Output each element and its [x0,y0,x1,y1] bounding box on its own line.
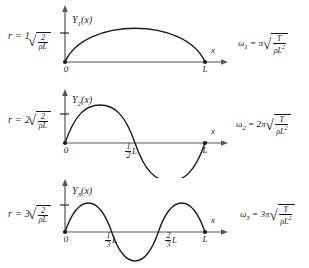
omega-subscript: 3 [246,214,250,222]
omega-subscript: 2 [242,124,246,132]
tick-suffix: L [132,146,137,156]
x-tick-label-0: 0 [60,64,72,74]
tick-suffix: L [172,235,177,245]
fraction: TρL2 [273,35,286,55]
fraction-denominator: 2 [125,152,131,160]
omega-subscript: 1 [244,43,248,51]
mode-row-2: r = 2 √2ρL Y2(x) x 0 12L L ω2 [0,89,309,178]
x-tick-label-third-L: 13L [98,232,124,250]
sqrt-symbol: √TρL2 [263,33,289,55]
radical-sign-icon: √ [263,37,271,52]
fraction: 13 [105,232,111,250]
fraction: 12 [125,143,131,161]
fraction-numerator: T [273,35,286,44]
x-tick-label-0: 0 [60,145,72,155]
x-axis-label-1: x [211,45,215,55]
equals-sign: = [250,38,256,48]
x-axis-label-2: x [211,126,215,136]
mode-curve-2 [65,105,205,178]
denominator-exponent: 2 [288,215,291,221]
equals-sign: = [252,209,258,219]
x-tick-label-L: L [199,145,211,155]
denominator-exponent: 2 [284,125,287,131]
x-tick-label-L: L [199,64,211,74]
sqrt-symbol: √TρL2 [269,204,295,226]
fraction-denominator: ρL2 [279,215,292,226]
sqrt-symbol: √TρL2 [265,114,291,136]
radical-sign-icon: √ [269,208,277,223]
equals-sign: = [248,119,254,129]
fraction-denominator: 3 [165,241,171,249]
frequency-formula-2: ω2 = 2π√TρL2 [236,114,291,136]
fraction: 23 [165,232,171,250]
tick-suffix: L [112,235,117,245]
fraction: TρL2 [279,206,292,226]
fraction-denominator: 3 [105,241,111,249]
denominator-base: ρL [274,46,282,55]
denominator-exponent: 2 [282,44,285,50]
fraction-numerator: T [275,116,288,125]
x-axis-arrow-icon [221,140,228,146]
y-axis-arrow-icon [62,5,68,12]
x-tick-label-0: 0 [60,234,72,244]
x-axis-arrow-icon [221,229,228,235]
x-tick-label-L: L [199,234,211,244]
mode-curve-1 [65,28,205,62]
fraction-numerator: T [279,206,292,215]
frequency-formula-3: ω3 = 3π√TρL2 [240,204,295,226]
frequency-formula-1: ω1 = π√TρL2 [238,33,288,55]
x-tick-label-two-thirds-L: 23L [158,232,184,250]
fraction-denominator: ρL2 [273,44,286,55]
frequency-coefficient: 3π [260,209,269,219]
fraction: TρL2 [275,116,288,136]
y-axis-arrow-icon [62,179,68,186]
frequency-coefficient: 2π [256,119,265,129]
radical-body: TρL2 [271,33,288,55]
fraction-denominator: ρL2 [275,125,288,136]
x-axis-label-3: x [211,215,215,225]
normal-modes-figure: r = 1 √2ρL Y1(x) x 0 L [0,0,309,268]
x-tick-label-half-L: 12L [118,143,144,161]
mode-row-3: r = 3 √2ρL Y3(x) x 0 13L 23L L [0,178,309,267]
x-axis-arrow-icon [221,59,228,65]
y-axis-arrow-icon [62,89,68,96]
mode-row-1: r = 1 √2ρL Y1(x) x 0 L [0,0,309,89]
radical-body: TρL2 [274,114,291,136]
radical-sign-icon: √ [265,118,273,133]
radical-body: TρL2 [278,204,295,226]
